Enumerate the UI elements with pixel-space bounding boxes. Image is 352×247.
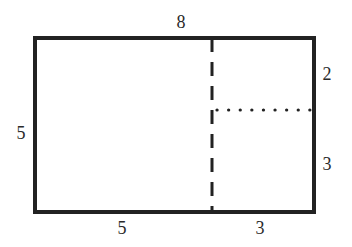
- outer-rectangle: [35, 38, 314, 212]
- label-bottom-left-width: 5: [118, 219, 127, 237]
- label-right-top-height: 2: [323, 65, 332, 83]
- label-right-bottom-height: 3: [323, 155, 332, 173]
- rectangle-diagram: [0, 0, 352, 247]
- label-left-height: 5: [17, 124, 26, 142]
- label-bottom-right-width: 3: [256, 219, 265, 237]
- label-top-width: 8: [177, 13, 186, 31]
